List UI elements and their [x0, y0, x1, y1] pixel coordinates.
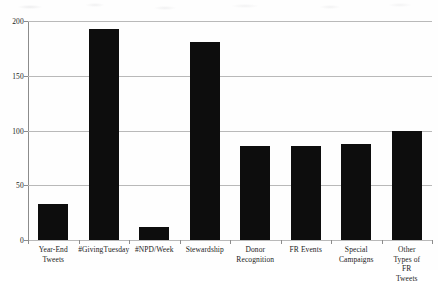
bars-layer	[28, 21, 432, 240]
x-tick-mark	[129, 240, 130, 244]
category-label: Year-End Tweets	[39, 245, 68, 264]
x-tick-mark	[331, 240, 332, 244]
y-axis-label-200: 200	[12, 17, 24, 26]
y-axis-label-50: 50	[16, 181, 24, 190]
category-label: Stewardship	[186, 245, 224, 255]
category-label: Special Campaigns	[339, 245, 374, 264]
x-tick-mark	[382, 240, 383, 244]
scan-noise-artifact	[0, 0, 438, 14]
plot-area: 050100150200	[28, 21, 432, 240]
bar[interactable]	[89, 29, 119, 240]
bar[interactable]	[190, 42, 220, 240]
bar[interactable]	[341, 144, 371, 240]
x-tick-mark	[281, 240, 282, 244]
bar[interactable]	[240, 146, 270, 240]
category-label: FR Events	[290, 245, 322, 255]
bar[interactable]	[392, 131, 422, 241]
x-tick-mark	[180, 240, 181, 244]
y-axis-label-0: 0	[20, 236, 24, 245]
category-label: Donor Recognition	[236, 245, 274, 264]
x-tick-mark	[230, 240, 231, 244]
x-tick-mark	[79, 240, 80, 244]
category-label: #NPD/Week	[135, 245, 174, 255]
bar[interactable]	[38, 204, 68, 240]
bar[interactable]	[291, 146, 321, 240]
category-label: Other Types of FR Tweets	[391, 245, 422, 283]
y-axis-label-150: 150	[12, 71, 24, 80]
y-axis-label-100: 100	[12, 126, 24, 135]
bar[interactable]	[139, 227, 169, 240]
x-tick-mark	[28, 240, 29, 244]
x-tick-mark	[432, 240, 433, 244]
category-label: #GivingTuesday	[78, 245, 129, 255]
